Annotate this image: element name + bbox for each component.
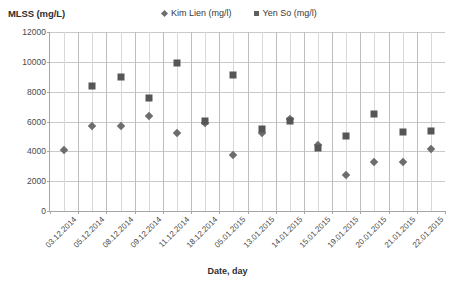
y-axis-tick-mark: [47, 32, 50, 33]
gridline-vertical: [248, 32, 249, 211]
data-point-kim-lien: [88, 122, 96, 130]
chart-legend: Kim Lien (mg/l) Yen So (mg/l): [162, 8, 317, 18]
data-point-yen-so: [117, 73, 124, 80]
data-point-yen-so: [202, 117, 209, 124]
gridline-vertical: [135, 32, 136, 211]
square-marker-icon: [254, 11, 259, 16]
y-axis-tick-mark: [47, 151, 50, 152]
data-point-yen-so: [258, 125, 265, 132]
data-point-yen-so: [230, 72, 237, 79]
y-axis-tick-label: 12000: [22, 27, 46, 37]
legend-item-kim-lien: Kim Lien (mg/l): [162, 8, 232, 18]
y-axis-tick-label: 10000: [22, 57, 46, 67]
x-axis-tick-mark: [445, 211, 446, 214]
y-axis-title: MLSS (mg/L): [8, 8, 65, 19]
gridline-vertical-minor: [346, 32, 347, 211]
y-axis-tick-mark: [47, 181, 50, 182]
data-point-yen-so: [343, 133, 350, 140]
data-point-kim-lien: [370, 158, 378, 166]
gridline-vertical-minor: [431, 32, 432, 211]
diamond-marker-icon: [161, 9, 168, 16]
gridline-vertical-minor: [149, 32, 150, 211]
x-axis-title: Date, day: [0, 266, 455, 276]
y-axis-tick-label: 4000: [27, 146, 46, 156]
data-point-yen-so: [145, 95, 152, 102]
y-axis-tick-label: 2000: [27, 176, 46, 186]
gridline-vertical: [191, 32, 192, 211]
legend-label-yen-so: Yen So (mg/l): [263, 8, 317, 18]
gridline-vertical-minor: [233, 32, 234, 211]
gridline-vertical: [276, 32, 277, 211]
gridline-vertical: [332, 32, 333, 211]
data-point-yen-so: [399, 128, 406, 135]
y-axis-tick-label: 8000: [27, 87, 46, 97]
legend-label-kim-lien: Kim Lien (mg/l): [171, 8, 232, 18]
data-point-kim-lien: [173, 129, 181, 137]
data-point-yen-so: [89, 83, 96, 90]
gridline-vertical: [163, 32, 164, 211]
y-axis-tick-mark: [47, 62, 50, 63]
y-axis-tick-mark: [47, 122, 50, 123]
data-point-kim-lien: [145, 112, 153, 120]
gridline-vertical: [304, 32, 305, 211]
gridline-vertical-minor: [262, 32, 263, 211]
mlss-scatter-chart: MLSS (mg/L) Kim Lien (mg/l) Yen So (mg/l…: [0, 0, 455, 287]
data-point-yen-so: [315, 145, 322, 152]
data-point-yen-so: [371, 111, 378, 118]
data-point-kim-lien: [116, 122, 124, 130]
data-point-kim-lien: [60, 146, 68, 154]
y-axis-tick-label: 6000: [27, 117, 46, 127]
gridline-vertical-minor: [318, 32, 319, 211]
gridline-vertical: [78, 32, 79, 211]
gridline-vertical: [219, 32, 220, 211]
gridline-vertical-minor: [64, 32, 65, 211]
plot-area: 020004000600080001000012000: [49, 32, 445, 212]
gridline-vertical: [417, 32, 418, 211]
data-point-yen-so: [173, 60, 180, 67]
data-point-kim-lien: [398, 158, 406, 166]
gridline-vertical-minor: [403, 32, 404, 211]
data-point-yen-so: [286, 117, 293, 124]
gridline-vertical: [106, 32, 107, 211]
legend-item-yen-so: Yen So (mg/l): [254, 8, 317, 18]
y-axis-tick-mark: [47, 92, 50, 93]
y-axis-tick-label: 0: [41, 206, 46, 216]
data-point-yen-so: [427, 128, 434, 135]
data-point-kim-lien: [342, 171, 350, 179]
gridline-vertical: [389, 32, 390, 211]
gridline-vertical-minor: [374, 32, 375, 211]
gridline-vertical: [360, 32, 361, 211]
